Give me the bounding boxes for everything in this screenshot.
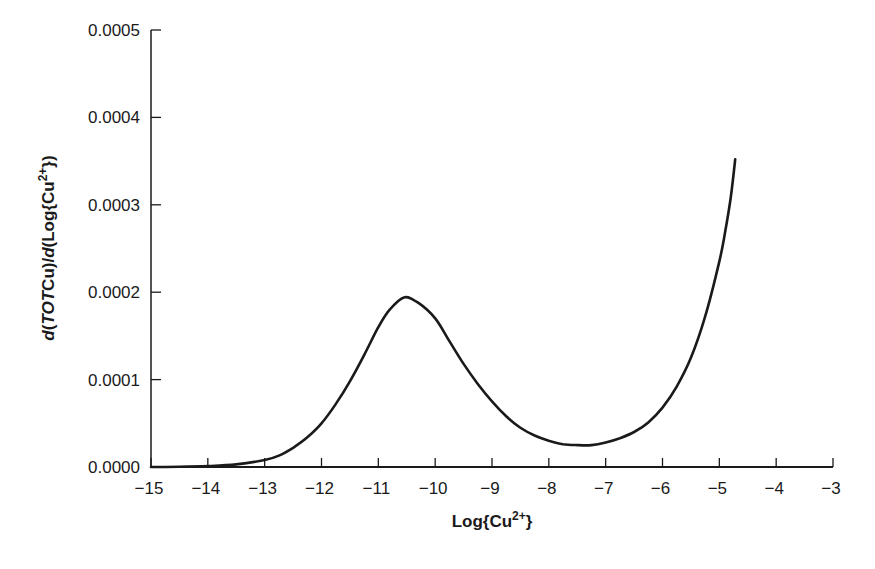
plot-area [151, 159, 735, 467]
y-tick-label: 0.0002 [88, 283, 140, 302]
x-tick-label: −8 [537, 479, 556, 498]
y-tick-label: 0.0001 [88, 371, 140, 390]
y-axis: 0.00000.00010.00020.00030.00040.0005 [88, 21, 161, 477]
x-tick-label: −15 [135, 479, 164, 498]
y-tick-label: 0.0000 [88, 458, 140, 477]
x-tick-label: −9 [480, 479, 499, 498]
x-axis-title: Log{Cu2+} [452, 509, 533, 531]
x-tick-label: −3 [821, 479, 840, 498]
y-tick-label: 0.0004 [88, 108, 140, 127]
series-line [151, 159, 735, 467]
x-tick-label: −13 [248, 479, 277, 498]
x-tick-label: −6 [651, 479, 670, 498]
x-tick-label: −14 [191, 479, 220, 498]
y-tick-label: 0.0003 [88, 196, 140, 215]
x-tick-label: −12 [305, 479, 334, 498]
y-tick-label: 0.0005 [88, 21, 140, 40]
x-tick-label: −10 [419, 479, 448, 498]
x-tick-label: −4 [764, 479, 783, 498]
x-tick-label: −5 [708, 479, 727, 498]
x-tick-label: −11 [363, 479, 391, 498]
y-axis-title: d(TOTCu)/d(Log{Cu2+}) [36, 155, 58, 340]
chart: 0.00000.00010.00020.00030.00040.0005 −15… [0, 0, 875, 569]
x-tick-label: −7 [594, 479, 613, 498]
